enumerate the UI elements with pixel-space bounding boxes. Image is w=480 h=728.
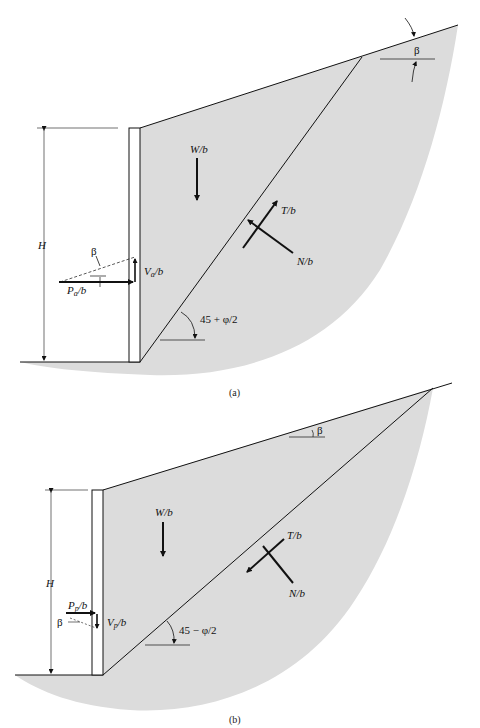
normal-label-a: N/b (296, 255, 313, 267)
vertical-force-label-a: Va/b (144, 265, 164, 279)
height-label-a: H (37, 239, 47, 251)
beta-slope-label-a: β (414, 44, 420, 56)
weight-label-a: W/b (190, 143, 208, 155)
passive-force-label-b: Pp/b (67, 599, 88, 613)
retaining-wall-b (92, 490, 103, 675)
slope-beta-arrow-top-a (405, 18, 414, 36)
panel-b: H W/b T/b N/b β Pp/b Vp/b 45 − φ/2 β (b) (15, 383, 452, 726)
weight-label-b: W/b (155, 506, 173, 518)
beta-force-label-b: β (57, 616, 63, 628)
retaining-wall-diagram: H W/b T/b N/b β Pa/b Va/b 45 + φ/2 β (a) (0, 0, 480, 728)
shear-label-b: T/b (287, 529, 302, 541)
shear-label-a: T/b (281, 204, 296, 216)
beta-slope-label-b: β (317, 424, 323, 436)
soil-mass-b (15, 388, 433, 711)
active-force-label-a: Pa/b (66, 284, 87, 298)
caption-b: (b) (229, 714, 241, 726)
failure-angle-label-a: 45 + φ/2 (200, 313, 238, 325)
vertical-force-label-b: Vp/b (107, 616, 127, 630)
beta-pointer-a (96, 256, 100, 266)
retaining-wall-a (129, 128, 140, 362)
soil-mass-a (20, 25, 458, 375)
beta-force-label-a: β (91, 245, 97, 257)
height-label-b: H (45, 577, 55, 589)
panel-a: H W/b T/b N/b β Pa/b Va/b 45 + φ/2 β (a) (20, 18, 458, 399)
normal-label-b: N/b (288, 587, 305, 599)
caption-a: (a) (229, 387, 240, 399)
failure-angle-label-b: 45 − φ/2 (179, 624, 217, 636)
